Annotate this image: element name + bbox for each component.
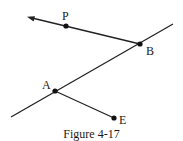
arrowhead-icon [27,16,35,21]
point-p [63,23,68,28]
label-a: A [42,78,51,92]
figure-caption: Figure 4-17 [0,127,183,141]
label-b: B [146,44,154,58]
line-ab [11,24,173,117]
point-e [111,115,116,120]
point-a [52,88,57,93]
segment-ae [55,91,114,118]
point-b [137,41,142,46]
label-p: P [62,9,69,23]
label-e: E [119,113,126,127]
ray-bp [30,18,140,45]
geometry-figure: P B A E [0,0,183,141]
